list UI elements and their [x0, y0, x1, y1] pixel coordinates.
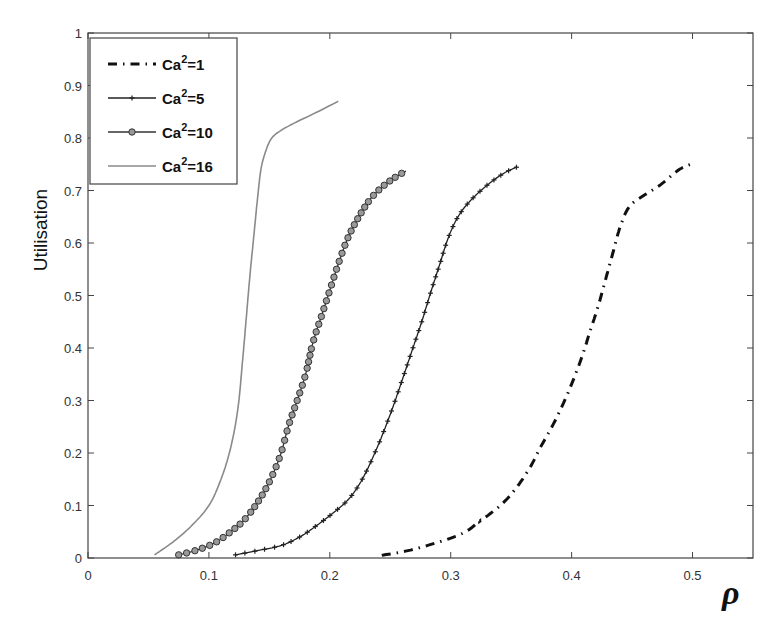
y-tick-label: 0.7 — [64, 184, 82, 199]
y-tick-label: 0.3 — [64, 394, 82, 409]
x-tick-label: 0 — [84, 568, 91, 583]
y-tick-label: 0.8 — [64, 131, 82, 146]
y-tick-label: 0.2 — [64, 446, 82, 461]
x-tick-label: 0.3 — [442, 568, 460, 583]
y-tick-label: 0.6 — [64, 236, 82, 251]
legend: Ca2=1Ca2=5Ca2=10Ca2=16 — [90, 38, 237, 184]
y-tick-label: 0.1 — [64, 499, 82, 514]
x-tick-label: 0.2 — [321, 568, 339, 583]
y-tick-label: 1 — [75, 26, 82, 41]
y-tick-label: 0.4 — [64, 341, 82, 356]
x-axis-label: ρ — [721, 574, 740, 611]
y-axis-label: Utilisation — [30, 189, 51, 271]
series-ca-1 — [382, 163, 694, 555]
y-tick-label: 0 — [75, 551, 82, 566]
y-tick-label: 0.5 — [64, 289, 82, 304]
series-ca-5 — [233, 165, 519, 558]
legend-label: Ca2=16 — [162, 155, 213, 175]
x-tick-label: 0.5 — [684, 568, 702, 583]
y-tick-label: 0.9 — [64, 79, 82, 94]
series-ca-10 — [175, 170, 406, 558]
x-tick-label: 0.4 — [563, 568, 581, 583]
x-tick-label: 0.1 — [200, 568, 218, 583]
legend-label: Ca2=10 — [162, 121, 213, 141]
chart: 00.10.20.30.40.500.10.20.30.40.50.60.70.… — [0, 0, 781, 634]
